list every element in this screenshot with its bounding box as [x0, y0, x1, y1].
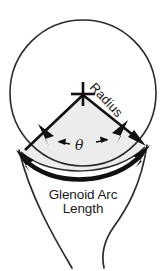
glenoid-arc-length-label-line1: Glenoid Arc: [49, 187, 118, 202]
glenoid-arc-length-label: Glenoid Arc Length: [49, 188, 118, 216]
theta-angle-label: θ: [75, 138, 83, 153]
glenoid-arc-diagram: Radius θ Glenoid Arc Length: [0, 0, 166, 271]
diagram-canvas: [0, 0, 166, 271]
glenoid-arc-length-label-line2: Length: [49, 202, 118, 216]
